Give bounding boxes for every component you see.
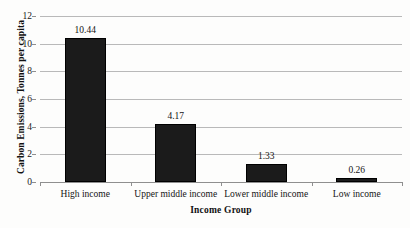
y-tick-mark [32,182,36,183]
x-tick-mark [312,182,313,186]
x-tick-mark [221,182,222,186]
y-tick-mark [32,99,36,100]
bar-value-label: 4.17 [167,111,184,122]
y-tick-mark [32,154,36,155]
y-axis-ticks: 024681012 [0,16,36,182]
plot-area: 10.444.171.330.26 [40,16,402,182]
x-tick-label: Lower middle income [224,188,308,201]
y-tick-mark [32,71,36,72]
x-tick-mark [40,182,41,186]
y-tick-mark [32,44,36,45]
bar-value-label: 10.44 [75,25,96,36]
x-axis-categories: High incomeUpper middle incomeLower midd… [40,188,402,202]
x-tick-label: Low income [333,188,381,201]
bar-value-label: 1.33 [258,151,275,162]
x-tick-label: High income [61,188,110,201]
bar-value-label: 0.26 [348,165,365,176]
bar [336,178,377,182]
bar [65,38,106,182]
bar [246,164,287,182]
bar [155,124,196,182]
gridline [40,16,402,17]
bar-chart: Carbon Emissions, Tonnes per capita 0246… [0,0,410,228]
x-tick-mark [131,182,132,186]
x-tick-label: Upper middle income [134,188,217,201]
y-tick-label: 10 [23,39,33,49]
y-tick-label: 12 [23,11,33,21]
y-tick-mark [32,127,36,128]
x-tick-mark [402,182,403,186]
y-tick-mark [32,16,36,17]
x-axis-title: Income Group [40,204,402,216]
